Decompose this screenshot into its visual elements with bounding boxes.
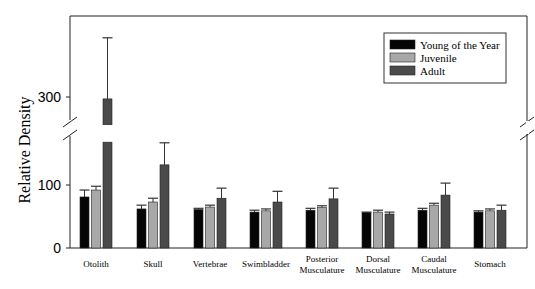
category-label: Musculature <box>412 265 457 275</box>
bar-group <box>137 143 170 248</box>
bar-group <box>194 188 227 248</box>
break-gap <box>526 121 529 134</box>
bar <box>474 212 483 248</box>
legend-label: Juvenile <box>420 52 457 64</box>
category-label: Stomach <box>474 259 506 269</box>
legend-swatch <box>390 40 415 49</box>
y-tick-label: 300 <box>38 89 62 105</box>
legend-swatch <box>390 53 415 62</box>
y-tick-label: 0 <box>53 240 61 256</box>
category-label: Skull <box>143 259 163 269</box>
category-label: Vertebrae <box>193 259 227 269</box>
bar-group <box>474 205 507 248</box>
bar <box>103 99 112 125</box>
bar <box>149 202 158 248</box>
category-label: Musculature <box>300 265 345 275</box>
x-axis-labels: OtolithSkullVertebraeSwimbladderPosterio… <box>83 254 506 275</box>
bar <box>250 212 259 248</box>
bar <box>486 211 495 248</box>
bar <box>80 197 89 248</box>
bar-group <box>362 210 395 248</box>
bar <box>103 142 112 248</box>
legend-label: Adult <box>420 65 445 77</box>
legend: Young of the YearJuvenileAdult <box>384 33 506 83</box>
bar <box>262 211 271 248</box>
category-label: Dorsal <box>366 254 390 264</box>
y-axis: 0100300 <box>38 89 70 256</box>
bar <box>430 205 439 248</box>
bar <box>385 214 394 248</box>
y-tick-label: 100 <box>38 177 62 193</box>
bar <box>329 199 338 248</box>
bar <box>194 210 203 248</box>
category-label: Musculature <box>356 265 401 275</box>
bar <box>92 190 101 248</box>
bar <box>318 208 327 248</box>
bar <box>206 207 215 248</box>
bar-group <box>306 188 339 248</box>
bar <box>217 198 226 248</box>
bar <box>497 210 506 248</box>
category-label: Otolith <box>83 259 109 269</box>
bar <box>306 210 315 248</box>
y-axis-label: Relative Density <box>16 96 34 203</box>
bar <box>273 202 282 248</box>
legend-swatch <box>390 66 415 75</box>
bar <box>137 209 146 248</box>
legend-label: Young of the Year <box>420 39 500 51</box>
category-label: Caudal <box>421 254 447 264</box>
bar <box>362 213 371 248</box>
bar <box>441 195 450 248</box>
bar-chart: 0100300 OtolithSkullVertebraeSwimbladder… <box>0 0 535 289</box>
category-label: Swimbladder <box>242 259 290 269</box>
bar-group <box>250 191 283 248</box>
bar <box>418 210 427 248</box>
category-label: Posterior <box>306 254 339 264</box>
bar-group <box>418 183 451 248</box>
bar-group <box>80 38 113 248</box>
bar <box>160 165 169 248</box>
bar <box>374 212 383 248</box>
